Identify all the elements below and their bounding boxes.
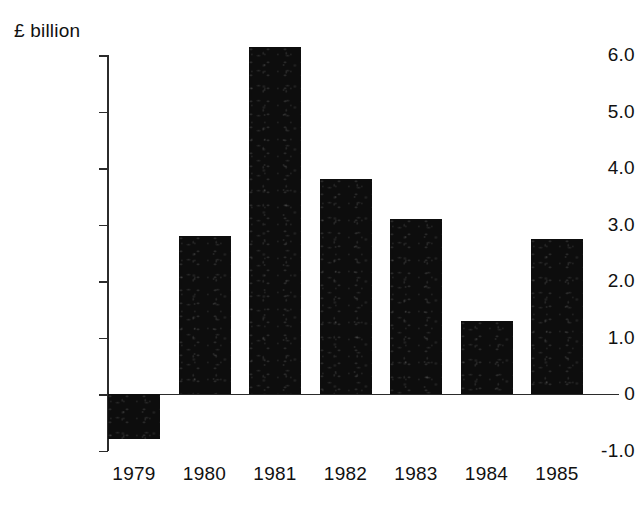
x-label-1984: 1984: [452, 463, 522, 485]
y-tick-mark: [99, 394, 108, 396]
y-tick-label: 3.0: [539, 214, 635, 236]
bar-1980: [179, 236, 231, 394]
x-label-1981: 1981: [240, 463, 310, 485]
bar-1984: [461, 321, 513, 394]
y-tick-label: 4.0: [539, 157, 635, 179]
y-tick-mark: [99, 281, 108, 283]
y-tick-label: -1.0: [539, 440, 635, 462]
x-label-1983: 1983: [381, 463, 451, 485]
y-tick-mark: [99, 168, 108, 170]
y-axis-line: [107, 55, 109, 451]
y-tick-mark: [99, 338, 108, 340]
y-tick-label: 5.0: [539, 101, 635, 123]
y-tick-mark: [99, 112, 108, 114]
y-tick-mark: [99, 55, 108, 57]
x-label-1982: 1982: [311, 463, 381, 485]
x-label-1979: 1979: [99, 463, 169, 485]
y-tick-label: 6.0: [539, 44, 635, 66]
bar-chart-figure: £ billion 6.0 5.0 4.0 3.0 2.0 1.0 0 -1.0…: [0, 0, 635, 508]
x-label-1980: 1980: [170, 463, 240, 485]
x-label-1985: 1985: [522, 463, 592, 485]
bar-1985: [531, 239, 583, 394]
y-tick-mark: [99, 451, 108, 453]
plot-area: 6.0 5.0 4.0 3.0 2.0 1.0 0 -1.0 1979 1980…: [0, 0, 635, 508]
bar-1981: [249, 47, 301, 394]
bar-1982: [320, 179, 372, 394]
bar-1979: [108, 394, 160, 439]
bar-1983: [390, 219, 442, 394]
y-tick-mark: [99, 225, 108, 227]
